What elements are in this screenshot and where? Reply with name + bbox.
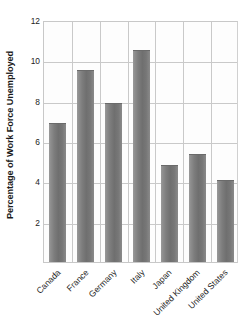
gridline-vertical <box>100 22 101 262</box>
bar <box>49 123 66 262</box>
bar <box>217 180 234 262</box>
y-axis-title-text: Percentage of Work Force Unemployed <box>5 51 15 219</box>
gridline-vertical <box>155 22 156 262</box>
x-axis-tick-label-text: Japan <box>150 266 175 291</box>
plot-area <box>43 21 238 263</box>
x-axis-tick-label-text: Italy <box>128 266 148 286</box>
bar <box>77 70 94 262</box>
gridline-vertical <box>72 22 73 262</box>
gridline-vertical <box>211 22 212 262</box>
y-axis-tick-label: 4 <box>20 177 40 187</box>
x-axis-tick-labels: CanadaFranceGermanyItalyJapanUnited King… <box>43 263 238 333</box>
bar <box>189 154 206 262</box>
y-axis-tick-label: 2 <box>20 218 40 228</box>
gridline-vertical <box>128 22 129 262</box>
y-axis-tick-label: 12 <box>20 16 40 26</box>
y-axis-tick-labels: 24681012 <box>16 21 40 263</box>
gridline-vertical <box>183 22 184 262</box>
bar <box>105 103 122 262</box>
bar-chart: Percentage of Work Force Unemployed 2468… <box>0 0 246 333</box>
bar <box>161 165 178 262</box>
y-axis-tick-label: 6 <box>20 137 40 147</box>
y-axis-tick-label: 10 <box>20 56 40 66</box>
y-axis-tick-label: 8 <box>20 97 40 107</box>
bar <box>133 50 150 262</box>
